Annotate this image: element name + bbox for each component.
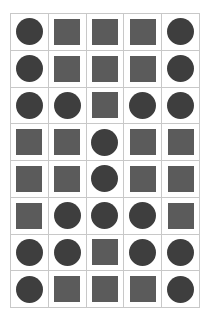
- circle-icon: [91, 129, 118, 156]
- grid-cell: [162, 124, 200, 161]
- circle-icon: [129, 239, 156, 266]
- circle-icon: [16, 239, 43, 266]
- grid-cell: [87, 124, 125, 161]
- grid-cell: [11, 88, 49, 125]
- circle-icon: [129, 202, 156, 229]
- grid-cell: [124, 14, 162, 51]
- grid-cell: [11, 235, 49, 272]
- grid-cell: [162, 51, 200, 88]
- grid-cell: [11, 14, 49, 51]
- grid-cell: [124, 88, 162, 125]
- grid-cell: [162, 271, 200, 308]
- square-icon: [130, 19, 156, 45]
- grid-cell: [11, 198, 49, 235]
- circle-icon: [129, 92, 156, 119]
- grid-cell: [124, 51, 162, 88]
- grid-cell: [11, 161, 49, 198]
- square-icon: [168, 166, 194, 192]
- grid-cell: [124, 161, 162, 198]
- circle-icon: [16, 276, 43, 303]
- square-icon: [16, 129, 42, 155]
- square-icon: [92, 56, 118, 82]
- circle-icon: [91, 165, 118, 192]
- square-icon: [168, 203, 194, 229]
- circle-icon: [16, 92, 43, 119]
- square-icon: [130, 166, 156, 192]
- circle-icon: [16, 55, 43, 82]
- circle-icon: [167, 92, 194, 119]
- grid-cell: [49, 271, 87, 308]
- grid-cell: [11, 124, 49, 161]
- circle-icon: [16, 18, 43, 45]
- shape-grid: [10, 13, 200, 308]
- circle-icon: [54, 92, 81, 119]
- grid-cell: [49, 235, 87, 272]
- grid-cell: [49, 161, 87, 198]
- grid-cell: [49, 51, 87, 88]
- grid-cell: [162, 198, 200, 235]
- square-icon: [130, 56, 156, 82]
- grid-cell: [11, 271, 49, 308]
- grid-cell: [49, 14, 87, 51]
- grid-cell: [87, 88, 125, 125]
- square-icon: [130, 276, 156, 302]
- square-icon: [130, 129, 156, 155]
- grid-cell: [162, 161, 200, 198]
- square-icon: [92, 239, 118, 265]
- circle-icon: [54, 202, 81, 229]
- grid-cell: [11, 51, 49, 88]
- square-icon: [168, 129, 194, 155]
- grid-cell: [162, 235, 200, 272]
- grid-cell: [162, 88, 200, 125]
- grid-cell: [49, 88, 87, 125]
- circle-icon: [167, 239, 194, 266]
- square-icon: [54, 56, 80, 82]
- square-icon: [54, 19, 80, 45]
- circle-icon: [167, 55, 194, 82]
- square-icon: [54, 166, 80, 192]
- grid-cell: [49, 124, 87, 161]
- grid-cell: [124, 271, 162, 308]
- grid-cell: [87, 161, 125, 198]
- grid-cell: [87, 14, 125, 51]
- grid-cell: [87, 271, 125, 308]
- circle-icon: [54, 239, 81, 266]
- grid-cell: [124, 235, 162, 272]
- square-icon: [92, 92, 118, 118]
- grid-cell: [87, 51, 125, 88]
- grid-cell: [87, 198, 125, 235]
- square-icon: [16, 203, 42, 229]
- grid-cell: [49, 198, 87, 235]
- circle-icon: [91, 202, 118, 229]
- square-icon: [92, 276, 118, 302]
- square-icon: [54, 276, 80, 302]
- square-icon: [54, 129, 80, 155]
- grid-cell: [87, 235, 125, 272]
- circle-icon: [167, 18, 194, 45]
- grid-cell: [124, 124, 162, 161]
- grid-cell: [162, 14, 200, 51]
- square-icon: [16, 166, 42, 192]
- square-icon: [92, 19, 118, 45]
- grid-cell: [124, 198, 162, 235]
- circle-icon: [167, 276, 194, 303]
